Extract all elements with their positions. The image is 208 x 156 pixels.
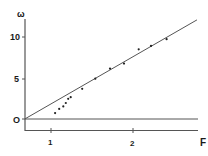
scatter-chart: ω 10 5 O 1 2 F bbox=[0, 0, 208, 156]
data-points bbox=[54, 38, 168, 114]
data-point bbox=[70, 96, 72, 98]
x-axis-label: F bbox=[200, 137, 206, 148]
data-point bbox=[166, 38, 168, 40]
y-tick-label-5: 5 bbox=[14, 74, 19, 84]
data-point bbox=[65, 102, 67, 104]
fit-line bbox=[25, 20, 197, 119]
data-point bbox=[94, 78, 96, 80]
data-point bbox=[62, 105, 64, 107]
x-tick-label-2: 2 bbox=[130, 139, 135, 148]
data-point bbox=[67, 98, 69, 100]
data-point bbox=[109, 68, 111, 70]
y-tick-label-0: O bbox=[13, 115, 20, 125]
data-point bbox=[58, 108, 60, 110]
x-tick-label-1: 1 bbox=[48, 138, 53, 147]
y-axis-label: ω bbox=[17, 9, 25, 19]
data-point bbox=[54, 112, 56, 114]
data-point bbox=[150, 45, 152, 47]
y-tick-label-10: 10 bbox=[10, 32, 20, 42]
data-point bbox=[138, 48, 140, 50]
data-point bbox=[81, 88, 83, 90]
data-point bbox=[123, 63, 125, 65]
